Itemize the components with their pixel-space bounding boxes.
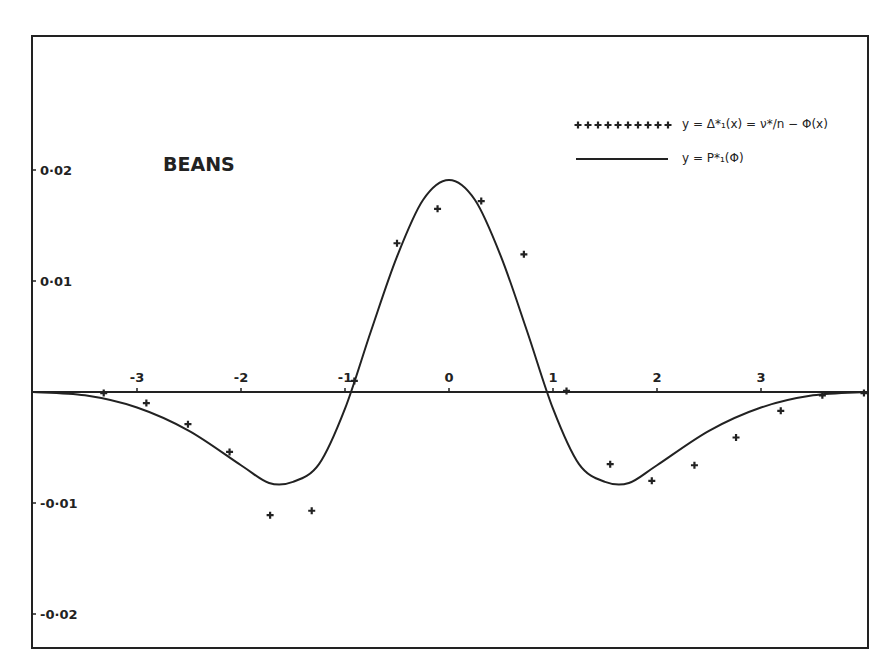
- plus-marker: [607, 461, 614, 468]
- plus-marker: [777, 407, 784, 414]
- plus-marker: [585, 122, 592, 129]
- plus-marker: [665, 122, 672, 129]
- plus-marker: [733, 434, 740, 441]
- x-tick-label: 2: [652, 370, 661, 385]
- plus-marker: [563, 387, 570, 394]
- plus-marker: [625, 122, 632, 129]
- y-tick-label: -0·01: [40, 496, 77, 511]
- x-tick-label: 1: [548, 370, 557, 385]
- x-tick-label: 3: [756, 370, 765, 385]
- plus-marker: [394, 240, 401, 247]
- x-tick-label: -3: [130, 370, 144, 385]
- plus-marker: [478, 198, 485, 205]
- x-tick-label: 0: [444, 370, 453, 385]
- plus-marker: [615, 122, 622, 129]
- plus-marker: [226, 448, 233, 455]
- plus-marker: [645, 122, 652, 129]
- legend-label-points: y = Δ*₁(x) = ν*/n − Φ(x): [682, 117, 828, 131]
- plus-marker: [267, 512, 274, 519]
- plus-marker: [575, 122, 582, 129]
- plus-marker: [520, 251, 527, 258]
- x-tick-label: -1: [338, 370, 352, 385]
- plus-marker: [655, 122, 662, 129]
- plus-marker: [143, 400, 150, 407]
- x-tick-label: -2: [234, 370, 248, 385]
- y-tick-label: -0·02: [40, 607, 77, 622]
- plus-marker: [648, 477, 655, 484]
- chart-title: BEANS: [163, 153, 235, 175]
- plus-marker: [595, 122, 602, 129]
- legend-label-curve: y = P*₁(Φ): [682, 151, 744, 165]
- plus-marker: [605, 122, 612, 129]
- legend-plus-markers: [575, 122, 672, 129]
- plus-marker: [434, 205, 441, 212]
- chart: 0·020·01-0·01-0·02 -3-2-10123 BEANS y = …: [0, 0, 894, 672]
- x-axis-ticks: -3-2-10123: [130, 370, 766, 392]
- fitted-curve: [33, 180, 865, 485]
- plus-marker: [100, 390, 107, 397]
- plus-marker: [635, 122, 642, 129]
- plus-marker: [691, 462, 698, 469]
- plus-marker: [860, 390, 867, 397]
- y-tick-label: 0·02: [40, 163, 72, 178]
- plus-marker: [184, 421, 191, 428]
- plus-marker: [308, 507, 315, 514]
- y-tick-label: 0·01: [40, 274, 72, 289]
- legend: y = Δ*₁(x) = ν*/n − Φ(x) y = P*₁(Φ): [575, 117, 828, 165]
- data-points: [100, 198, 867, 519]
